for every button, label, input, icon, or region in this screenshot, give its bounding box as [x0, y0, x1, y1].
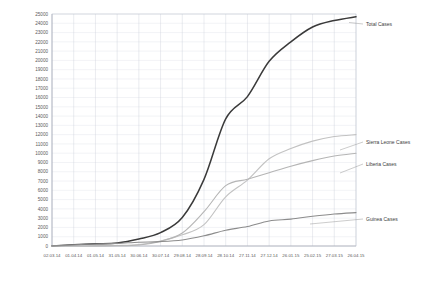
y-tick-label: 19000	[35, 67, 48, 72]
y-axis-tick-labels: 0100020003000400050006000700080009000100…	[35, 12, 48, 249]
y-tick-label: 10000	[35, 151, 48, 156]
y-tick-label: 2000	[38, 225, 49, 230]
x-tick-label: 01.05.14	[87, 253, 105, 258]
y-tick-label: 5000	[38, 197, 49, 202]
x-tick-label: 27.11.14	[239, 253, 256, 258]
x-tick-label: 27.03.15	[326, 253, 344, 258]
y-tick-label: 11000	[36, 142, 49, 147]
y-tick-label: 15000	[35, 105, 48, 110]
x-tick-label: 26.04.15	[347, 253, 365, 258]
leader-line-sierra-leone-cases	[340, 142, 363, 150]
y-tick-label: 0	[45, 244, 48, 249]
x-tick-label: 25.02.15	[304, 253, 322, 258]
y-tick-label: 12000	[35, 132, 48, 137]
chart-container: 0100020003000400050006000700080009000100…	[0, 0, 438, 281]
x-tick-label: 26.01.15	[282, 253, 300, 258]
y-tick-label: 17000	[35, 86, 48, 91]
series-label-guinea-cases: Guinea Cases	[366, 216, 398, 222]
y-tick-label: 20000	[35, 58, 48, 63]
y-tick-label: 24000	[35, 21, 48, 26]
series-label-leader-lines	[310, 23, 363, 225]
x-tick-label: 28.10.14	[217, 253, 235, 258]
y-tick-label: 21000	[35, 49, 48, 54]
series-label-liberia-cases: Liberia Cases	[366, 161, 397, 167]
x-tick-label: 30.06.14	[130, 253, 148, 258]
x-tick-label: 01.04.14	[65, 253, 83, 258]
y-tick-label: 9000	[38, 160, 49, 165]
y-tick-label: 8000	[38, 169, 49, 174]
y-tick-label: 6000	[38, 188, 49, 193]
y-tick-label: 16000	[35, 95, 48, 100]
x-tick-label: 28.09.14	[195, 253, 213, 258]
x-axis-tick-labels: 02.03.1401.04.1401.05.1431.05.1430.06.14…	[43, 253, 365, 258]
x-tick-label: 30.07.14	[152, 253, 170, 258]
y-tick-label: 22000	[35, 40, 48, 45]
y-tick-label: 13000	[35, 123, 48, 128]
y-tick-label: 23000	[35, 30, 48, 35]
series-labels: Total CasesSierra Leone CasesLiberia Cas…	[366, 21, 411, 222]
y-tick-label: 25000	[35, 12, 48, 17]
y-tick-label: 4000	[38, 207, 49, 212]
y-tick-label: 18000	[35, 77, 48, 82]
x-tick-label: 02.03.14	[43, 253, 61, 258]
y-tick-label: 3000	[38, 216, 49, 221]
y-tick-label: 7000	[38, 179, 49, 184]
ebola-cumulative-cases-line-chart: 0100020003000400050006000700080009000100…	[0, 0, 438, 281]
x-tick-label: 31.05.14	[109, 253, 127, 258]
series-label-sierra-leone-cases: Sierra Leone Cases	[366, 139, 411, 145]
leader-line-guinea-cases	[310, 219, 363, 224]
y-tick-label: 1000	[38, 234, 49, 239]
series-label-total-cases: Total Cases	[366, 21, 393, 27]
x-tick-label: 27.12.14	[261, 253, 279, 258]
x-tick-label: 29.08.14	[174, 253, 192, 258]
y-tick-label: 14000	[35, 114, 48, 119]
